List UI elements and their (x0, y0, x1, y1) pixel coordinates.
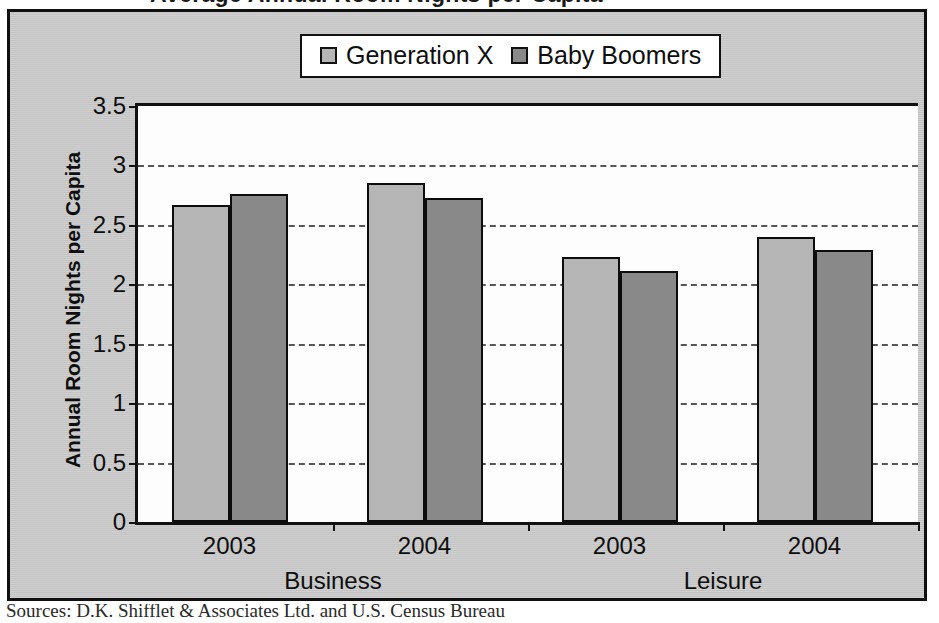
x-tick-mark (333, 522, 335, 531)
x-axis-year-label: 2003 (203, 534, 256, 558)
legend-label-baby-boomers: Baby Boomers (537, 43, 701, 68)
x-tick-mark (918, 522, 920, 531)
y-tick-mark (129, 403, 138, 405)
chart-frame: Generation X Baby Boomers Annual Room Ni… (7, 9, 927, 601)
plot-area: 00.511.522.533.52003200420032004Business… (135, 103, 918, 525)
y-tick-mark (129, 165, 138, 167)
legend-item-generation-x: Generation X (320, 43, 493, 68)
y-tick-label: 1 (113, 391, 126, 415)
y-tick-label: 3 (113, 153, 126, 177)
x-axis-group-label: Leisure (684, 569, 763, 593)
bar-generation-x (757, 237, 815, 522)
chart-title-strip: Average Annual Room Nights per Capita (0, 0, 939, 9)
y-tick-mark (129, 106, 138, 108)
square-swatch-icon (320, 47, 337, 64)
bar-generation-x (367, 183, 425, 522)
bar-baby-boomers (620, 271, 678, 522)
chart-legend: Generation X Baby Boomers (300, 34, 721, 78)
y-tick-mark (129, 344, 138, 346)
bar-baby-boomers (230, 194, 288, 522)
x-axis-year-label: 2003 (593, 534, 646, 558)
x-axis-group-label: Business (284, 569, 381, 593)
y-tick-mark (129, 522, 138, 524)
bar-baby-boomers (425, 198, 483, 522)
square-swatch-icon (511, 47, 528, 64)
y-tick-label: 2 (113, 272, 126, 296)
source-note: Sources: D.K. Shifflet & Associates Ltd.… (6, 604, 939, 623)
legend-label-generation-x: Generation X (346, 43, 493, 68)
page-title: Average Annual Room Nights per Capita (150, 0, 603, 8)
gridline (138, 165, 918, 167)
y-tick-label: 0.5 (93, 451, 126, 475)
bar-baby-boomers (815, 250, 873, 522)
y-tick-label: 1.5 (93, 332, 126, 356)
x-tick-mark (723, 522, 725, 531)
y-tick-mark (129, 284, 138, 286)
y-tick-label: 3.5 (93, 94, 126, 118)
x-tick-mark (528, 522, 530, 531)
y-tick-label: 0 (113, 510, 126, 534)
y-axis-title: Annual Room Nights per Capita (56, 100, 90, 520)
y-tick-mark (129, 463, 138, 465)
bar-generation-x (562, 257, 620, 522)
y-tick-mark (129, 225, 138, 227)
x-axis-year-label: 2004 (398, 534, 451, 558)
source-note-text: Sources: D.K. Shifflet & Associates Ltd.… (6, 604, 505, 622)
bar-generation-x (172, 205, 230, 522)
y-tick-label: 2.5 (93, 213, 126, 237)
x-axis-year-label: 2004 (788, 534, 841, 558)
legend-item-baby-boomers: Baby Boomers (511, 43, 701, 68)
